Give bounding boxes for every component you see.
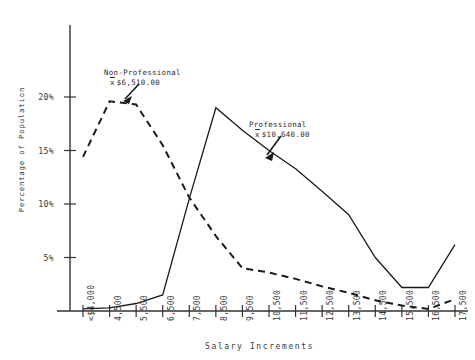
x-tick-label: 12,500 — [326, 290, 335, 321]
x-tick-label: 4,500 — [114, 295, 123, 321]
x-tick-label: <$4,000 — [87, 284, 96, 321]
x-tick-label: 10,500 — [273, 290, 282, 321]
x-tick-label: 11,500 — [300, 290, 309, 321]
x-tick-label: 17,500 — [459, 290, 468, 321]
x-tick-label: 8,500 — [220, 295, 229, 321]
chart-figure: Percentage of Population 5%10%15%20% <$4… — [0, 0, 475, 360]
y-tick-label: 15% — [28, 146, 54, 156]
annotation-series-name: Professional — [249, 120, 307, 129]
x-tick-label: 5,500 — [140, 295, 149, 321]
x-axis-title: Salary Increments — [205, 342, 314, 351]
x-tick-label: 9,500 — [246, 295, 255, 321]
chart-plot-area — [0, 0, 475, 360]
mean-symbol: x — [255, 130, 262, 139]
mean-value: $10,640.00 — [262, 130, 310, 139]
annotation-mean-row: x$6,510.00 — [104, 78, 181, 88]
x-tick-label: 7,500 — [193, 295, 202, 321]
x-tick-label: 13,500 — [353, 290, 362, 321]
x-tick-label: 16,500 — [432, 290, 441, 321]
mean-value: $6,510.00 — [117, 78, 160, 87]
x-tick-label: 6,500 — [167, 295, 176, 321]
x-tick-label: 14,500 — [379, 290, 388, 321]
y-tick-label: 5% — [28, 253, 54, 263]
x-tick-label: 15,500 — [406, 290, 415, 321]
annotation-professional: Professional x$10,640.00 — [249, 120, 310, 140]
mean-symbol: x — [110, 78, 117, 87]
annotation-series-name: Non-Professional — [104, 68, 181, 77]
annotation-non-professional: Non-Professional x$6,510.00 — [104, 68, 181, 88]
annotation-mean-row: x$10,640.00 — [249, 130, 310, 140]
y-tick-label: 10% — [28, 199, 54, 209]
y-tick-label: 20% — [28, 92, 54, 102]
